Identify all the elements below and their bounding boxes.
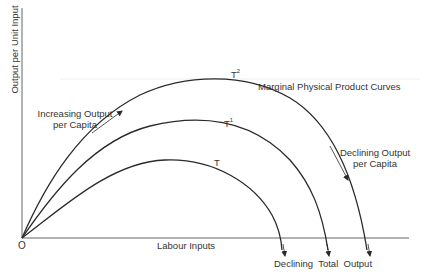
curve-t [22,160,282,250]
increasing-output-label: Increasing Output per Capita [34,108,116,130]
curve-t2 [22,79,367,250]
curve-label-t: T [214,157,220,168]
x-axis-label: Labour Inputs [157,240,215,251]
declining-total-arrow-icon [327,244,329,256]
declining-capita-label: Declining Output per Capita [335,147,415,169]
curve-label-t1: T1 [224,115,233,129]
y-axis-label: Output per Unit Input [9,0,20,100]
mpp-diagram [0,0,425,277]
curve-t1 [22,120,328,250]
curve-label-t2: T2 [231,66,240,80]
declining-total-arrow-icon [283,244,285,256]
origin-label: O [18,240,26,251]
declining-total-arrow-icon [368,244,370,256]
diagram-title: Marginal Physical Product Curves [258,81,401,92]
declining-total-output-label: Declining Total Output [274,258,372,269]
